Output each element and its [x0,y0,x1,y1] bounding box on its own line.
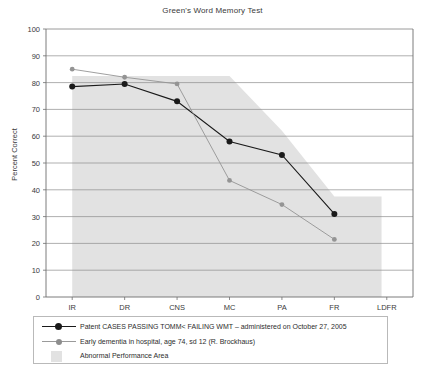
chart-legend: Patent CASES PASSING TOMM< FAILING WMT –… [33,316,388,364]
legend-label-abnormal-area: Abnormal Performance Area [80,352,168,359]
data-point-s1-ir[interactable] [69,84,75,90]
data-point-s1-fr[interactable] [331,211,337,217]
legend-key-area-swatch-gray [38,349,80,362]
legend-label-cases: Patent CASES PASSING TOMM< FAILING WMT –… [80,323,347,330]
data-point-s2-ir[interactable] [70,67,75,72]
data-point-s2-cns[interactable] [175,82,180,87]
legend-label-dementia: Early dementia in hospital, age 74, sd 1… [80,338,255,345]
data-point-s2-fr[interactable] [332,237,337,242]
legend-item-cases[interactable]: Patent CASES PASSING TOMM< FAILING WMT –… [38,320,347,333]
data-point-s2-pa[interactable] [280,202,285,207]
legend-item-dementia[interactable]: Early dementia in hospital, age 74, sd 1… [38,335,255,348]
data-point-s1-pa[interactable] [279,152,285,158]
data-point-s2-dr[interactable] [122,75,127,80]
data-point-s1-cns[interactable] [174,98,180,104]
data-point-s1-dr[interactable] [122,81,128,87]
data-point-s1-mc[interactable] [227,139,233,145]
data-point-s2-mc[interactable] [227,178,232,183]
legend-key-line-marker-black [38,320,80,333]
legend-key-line-marker-gray [38,335,80,348]
word-memory-test-chart: Green's Word Memory Test Percent Correct… [0,0,425,375]
legend-item-abnormal-area[interactable]: Abnormal Performance Area [38,349,168,362]
